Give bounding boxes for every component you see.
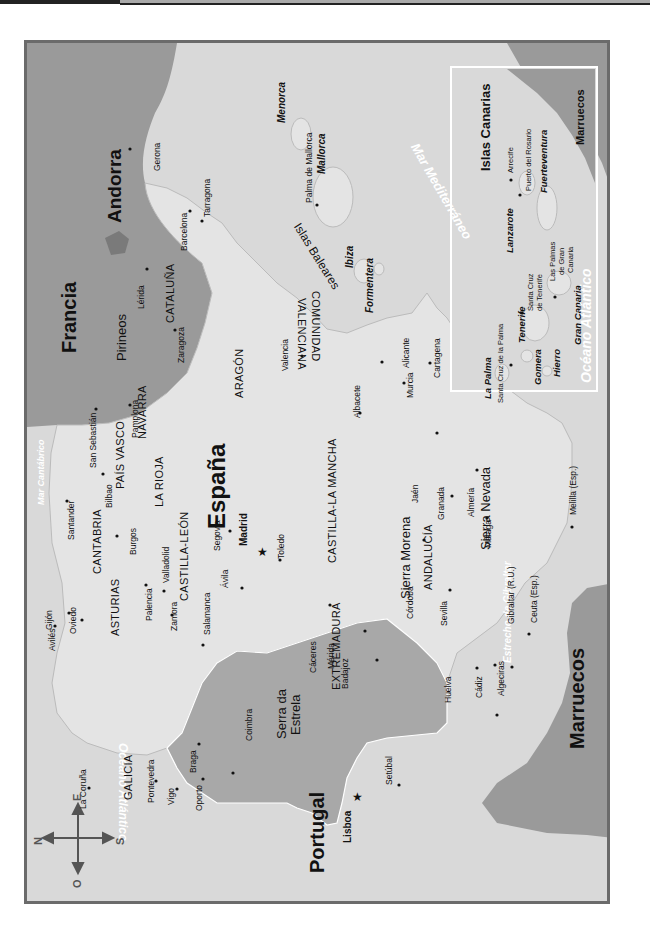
city-puerto-rosario: Puerto del Rosario xyxy=(525,129,533,191)
region-castilla-leon: CASTILLA-LEÓN xyxy=(179,512,190,601)
city-santa-cruz-tenerife-1: Santa Cruz xyxy=(527,273,535,311)
city-gibraltar: Gibraltar (R.U.) xyxy=(507,566,516,624)
label-pirineos: Pirineos xyxy=(115,314,128,361)
region-cataluna: CATALUÑA xyxy=(165,264,176,323)
region-aragon: ARAGÓN xyxy=(234,349,245,398)
city-bilbao: Bilbao xyxy=(105,484,114,508)
city-alicante: Alicante xyxy=(402,338,411,368)
label-hierro: Hierro xyxy=(552,349,562,377)
city-vigo: Vigo xyxy=(167,788,176,805)
city-malaga: Málaga xyxy=(484,520,493,548)
label-spain: España xyxy=(205,444,229,529)
city-granada: Granada xyxy=(437,487,446,520)
city-avila: Ávila xyxy=(221,570,230,588)
city-oviedo: Oviedo xyxy=(69,607,78,634)
inset-title-canarias: Islas Canarias xyxy=(479,84,492,171)
compass-south: S xyxy=(115,838,126,845)
city-sevilla: Sevilla xyxy=(440,601,449,626)
city-setubal: Setúbal xyxy=(385,756,394,785)
label-fuerteventura: Fuerteventura xyxy=(539,130,549,193)
label-mallorca: Mallorca xyxy=(317,133,327,174)
city-gijon: Gijón xyxy=(45,610,54,630)
region-andalucia: ANDALUCÍA xyxy=(423,524,434,590)
city-zamora: Zamora xyxy=(170,602,179,631)
city-santander: Santander xyxy=(67,501,76,540)
label-morocco: Marruecos xyxy=(567,648,587,749)
label-portugal: Portugal xyxy=(307,792,327,873)
formentera-island xyxy=(374,263,384,275)
city-cordoba: Córdoba xyxy=(406,586,415,619)
city-algeciras: Algeciras xyxy=(497,661,506,696)
city-valencia: Valencia xyxy=(281,339,290,371)
label-andorra: Andorra xyxy=(105,149,124,223)
city-lerida: Lérida xyxy=(137,285,146,309)
label-la-palma: La Palma xyxy=(483,357,493,399)
city-jaen: Jaén xyxy=(411,485,420,503)
city-palma: Palma de Mallorca xyxy=(305,133,314,203)
city-palencia: Palencia xyxy=(145,588,154,621)
city-oporto: Oporto xyxy=(195,785,204,811)
region-galicia: GALICIA xyxy=(123,754,134,800)
compass-west: O xyxy=(72,879,83,888)
city-tarragona: Tarragona xyxy=(203,179,212,217)
label-ibiza: Ibiza xyxy=(345,246,355,268)
city-arrecife: Arrecife xyxy=(507,147,515,173)
city-segovia: Segovia xyxy=(213,520,222,551)
city-las-palmas-3: Canaria xyxy=(567,247,575,273)
label-tenerife: Tenerife xyxy=(517,306,527,343)
city-san-sebastian: San Sebastián xyxy=(89,413,98,468)
region-pais-vasco: PAÍS VASCO xyxy=(115,421,126,489)
region-cantabria: CANTABRIA xyxy=(92,509,103,574)
mallorca-island xyxy=(313,167,353,227)
city-valladolid: Valladolid xyxy=(162,547,171,583)
label-serra-estrela-1: Serra da xyxy=(275,689,288,739)
label-france: Francia xyxy=(59,282,79,353)
label-oceano-atlantico-inset: Océano Atlántico xyxy=(579,268,593,383)
city-aviles: Avilés xyxy=(48,628,57,651)
top-edge-light xyxy=(120,0,650,5)
top-edge-dark xyxy=(0,0,120,4)
compass-north: N xyxy=(33,837,44,845)
label-mar-cantabrico: Mar Cantábrico xyxy=(37,439,46,505)
city-cadiz: Cádiz xyxy=(475,676,484,698)
city-pamplona: Pamplona xyxy=(131,400,140,438)
city-burgos: Burgos xyxy=(129,528,138,555)
city-almeria: Almería xyxy=(467,488,476,517)
city-toledo: Toledo xyxy=(277,534,286,559)
city-albacete: Albacete xyxy=(353,385,362,418)
label-menorca: Menorca xyxy=(277,82,287,123)
city-badajoz: Badajoz xyxy=(341,658,350,689)
city-barcelona: Barcelona xyxy=(180,213,189,251)
city-las-palmas-2: de Gran xyxy=(558,248,566,275)
city-la-coruna: La Coruña xyxy=(79,769,88,809)
city-caceres: Cáceres xyxy=(309,641,318,673)
city-santa-cruz-palma: Santa Cruz de la Palma xyxy=(497,324,505,403)
city-huelva: Huelva xyxy=(444,677,453,703)
city-santa-cruz-tenerife-2: de Tenerife xyxy=(536,274,544,311)
city-pontevedra: Pontevedra xyxy=(147,760,156,803)
top-edge xyxy=(0,0,650,8)
city-coimbra: Coimbra xyxy=(245,709,254,741)
region-asturias: ASTURIAS xyxy=(110,579,121,636)
region-la-rioja: LA RIOJA xyxy=(154,456,165,507)
map-frame: ★ ★ Francia Andorra España Portugal Marr… xyxy=(24,40,610,904)
madrid-star: ★ xyxy=(257,545,268,559)
city-gerona: Gerona xyxy=(153,143,162,171)
label-formentera: Formentera xyxy=(365,258,375,313)
city-melilla: Melilla (Esp.) xyxy=(569,466,578,515)
capital-lisboa: Lisboa xyxy=(343,811,353,843)
label-serra-estrela-2: Estrela xyxy=(289,695,302,735)
city-ceuta: Ceuta (Esp.) xyxy=(530,575,539,623)
city-cartagena: Cartagena xyxy=(433,338,442,378)
region-valenciana: VALENCIANA xyxy=(296,298,307,370)
city-las-palmas-1: Las Palmas xyxy=(549,242,557,281)
capital-madrid: Madrid xyxy=(239,513,249,546)
label-morocco-inset: Marruecos xyxy=(575,89,586,145)
label-lanzarote: Lanzarote xyxy=(505,208,515,253)
label-gomera: Gomera xyxy=(533,349,543,385)
city-braga: Braga xyxy=(189,750,198,773)
city-merida: Mérida xyxy=(327,643,336,669)
lisboa-star: ★ xyxy=(352,790,363,804)
region-comunidad: COMUNIDAD xyxy=(310,291,321,362)
region-castilla-la-mancha: CASTILLA-LA MANCHA xyxy=(327,438,338,563)
